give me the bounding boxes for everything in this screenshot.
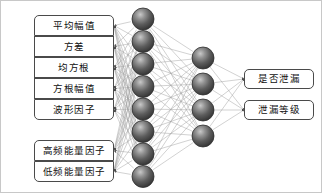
input-feature-box-4: 波形因子 <box>34 99 114 120</box>
input-feature-box-3: 方根幅值 <box>34 78 114 99</box>
edges-hidden2-to-output <box>210 63 244 130</box>
hidden1-node-4 <box>132 98 154 120</box>
input-energy-box-0: 高频能量因子 <box>34 140 114 161</box>
hidden1-node-0 <box>132 8 154 30</box>
hidden2-node-3 <box>192 125 214 147</box>
hidden1-node-1 <box>132 31 154 53</box>
input-energy-box-1: 低频能量因子 <box>34 161 114 182</box>
hidden1-node-5 <box>132 121 154 143</box>
input-feature-box-0: 平均幅值 <box>34 15 114 36</box>
hidden2-node-0 <box>192 47 214 69</box>
input-feature-box-1: 方差 <box>34 36 114 57</box>
hidden2-node-1 <box>192 73 214 95</box>
output-label-box-0: 是否泄漏 <box>244 69 314 89</box>
diagram-canvas: 平均幅值方差均方根方根幅值波形因子 高频能量因子低频能量因子 是否泄漏泄漏等级 <box>0 0 322 193</box>
hidden1-node-2 <box>132 53 154 75</box>
hidden1-node-6 <box>132 143 154 165</box>
output-label-box-1: 泄漏等级 <box>244 100 314 120</box>
input-feature-box-2: 均方根 <box>34 57 114 78</box>
hidden1-node-7 <box>132 166 154 188</box>
edges-hidden1-to-hidden2 <box>148 25 198 170</box>
hidden2-node-2 <box>192 99 214 121</box>
hidden1-node-3 <box>132 76 154 98</box>
hidden-layer-two-nodes <box>192 47 214 147</box>
